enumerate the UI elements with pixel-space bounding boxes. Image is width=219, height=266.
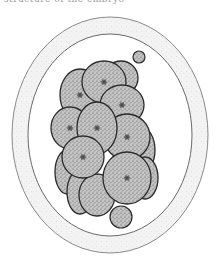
- embryo-illustration: [0, 0, 219, 266]
- cell-lower-left-front: [62, 136, 104, 178]
- polar-body-bottom: [110, 206, 132, 228]
- cell-lower-right-big: [103, 152, 151, 204]
- polar-body-top: [133, 51, 145, 63]
